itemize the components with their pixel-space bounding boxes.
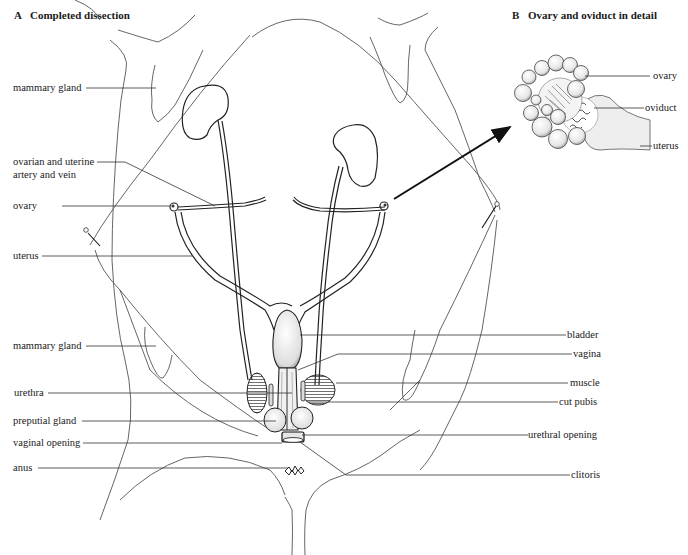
vaginal-opening bbox=[282, 432, 304, 442]
label-uterus: uterus bbox=[13, 250, 39, 262]
detail-arrow bbox=[394, 127, 510, 199]
label-mammary-gland-upper: mammary gland bbox=[13, 82, 82, 94]
label-ovarian-vessels-line1: ovarian and uterine bbox=[13, 156, 94, 168]
label-ovarian-vessels-line2: artery and vein bbox=[13, 169, 76, 181]
anus bbox=[285, 466, 304, 475]
label-detail-ovary: ovary bbox=[653, 70, 677, 82]
label-muscle: muscle bbox=[570, 377, 600, 389]
label-vagina: vagina bbox=[573, 348, 601, 360]
pins bbox=[84, 202, 500, 246]
ovaries bbox=[170, 202, 388, 211]
ovary-detail bbox=[515, 55, 651, 150]
body-outline bbox=[75, 0, 500, 555]
uterine-horns bbox=[175, 212, 385, 330]
label-ovary: ovary bbox=[13, 200, 37, 212]
bladder bbox=[273, 310, 302, 368]
label-preputial-gland: preputial gland bbox=[13, 415, 76, 427]
label-detail-uterus: uterus bbox=[653, 140, 679, 152]
panel-a-title: ACompleted dissection bbox=[14, 9, 130, 21]
label-urethral-opening: urethral opening bbox=[528, 429, 597, 441]
panel-b-title: BOvary and oviduct in detail bbox=[512, 9, 657, 21]
label-detail-oviduct: oviduct bbox=[645, 102, 677, 114]
ovarian-vessels bbox=[178, 197, 385, 212]
label-cut-pubis: cut pubis bbox=[559, 396, 597, 408]
label-clitoris: clitoris bbox=[571, 469, 600, 481]
panel-b-title-text: Ovary and oviduct in detail bbox=[528, 9, 657, 21]
label-urethra: urethra bbox=[14, 387, 44, 399]
kidneys bbox=[182, 85, 377, 186]
label-mammary-gland-lower: mammary gland bbox=[13, 340, 82, 352]
panel-a-letter: A bbox=[14, 9, 30, 21]
panel-a-title-text: Completed dissection bbox=[30, 9, 130, 21]
label-anus: anus bbox=[13, 462, 32, 474]
label-bladder: bladder bbox=[567, 329, 599, 341]
leader-lines-right bbox=[298, 335, 572, 475]
label-vaginal-opening: vaginal opening bbox=[13, 437, 80, 449]
panel-b-letter: B bbox=[512, 9, 528, 21]
